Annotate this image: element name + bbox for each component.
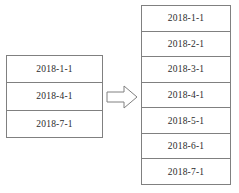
cell-value: 2018-3-1: [168, 64, 204, 74]
table-row: 2018-6-1: [142, 134, 230, 160]
table-row: 2018-3-1: [142, 57, 230, 83]
cell-value: 2018-4-1: [168, 90, 204, 100]
cell-value: 2018-1-1: [36, 64, 72, 74]
diagram-canvas: 2018-1-1 2018-4-1 2018-7-1 2018-1-1 2018…: [0, 0, 239, 193]
table-row: 2018-4-1: [142, 83, 230, 109]
cell-value: 2018-7-1: [168, 167, 204, 177]
cell-value: 2018-5-1: [168, 116, 204, 126]
transform-arrow: [106, 84, 138, 110]
cell-value: 2018-2-1: [168, 39, 204, 49]
table-row: 2018-5-1: [142, 108, 230, 134]
arrow-right-icon: [107, 86, 137, 108]
cell-value: 2018-6-1: [168, 141, 204, 151]
cell-value: 2018-1-1: [168, 13, 204, 23]
cell-value: 2018-4-1: [36, 91, 72, 101]
table-row: 2018-7-1: [142, 159, 230, 184]
table-row: 2018-1-1: [142, 6, 230, 32]
table-row: 2018-7-1: [7, 111, 102, 137]
target-date-table: 2018-1-1 2018-2-1 2018-3-1 2018-4-1 2018…: [141, 5, 231, 185]
source-date-table: 2018-1-1 2018-4-1 2018-7-1: [6, 55, 103, 138]
table-row: 2018-4-1: [7, 83, 102, 110]
table-row: 2018-2-1: [142, 32, 230, 58]
table-row: 2018-1-1: [7, 56, 102, 83]
cell-value: 2018-7-1: [36, 119, 72, 129]
